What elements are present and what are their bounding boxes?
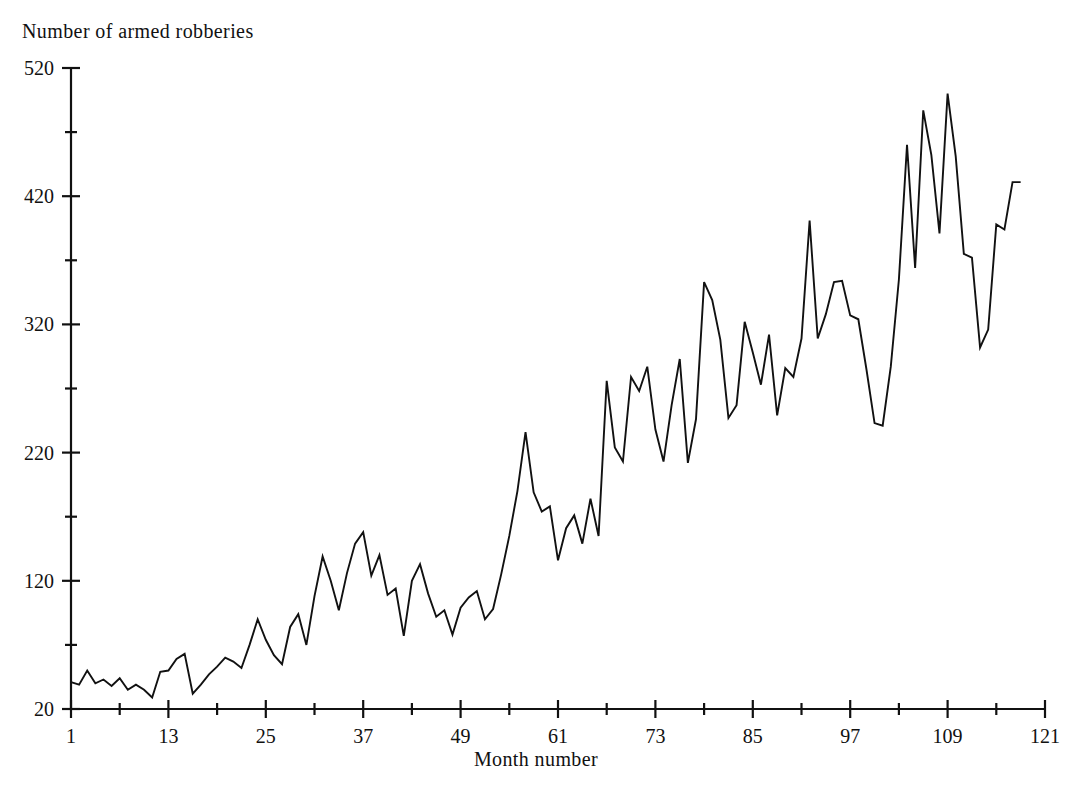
x-tick-label: 37 [353,725,373,747]
y-tick-label: 320 [24,313,54,335]
tick-labels-layer: 2012022032042052011325374961738597109121 [24,57,1060,747]
x-tick-label: 109 [933,725,963,747]
axes-layer [71,68,1045,709]
x-tick-label: 49 [451,725,471,747]
x-tick-label: 73 [645,725,665,747]
y-tick-label: 520 [24,57,54,79]
x-tick-label: 97 [840,725,860,747]
x-tick-label: 61 [548,725,568,747]
x-axis-title: Month number [0,748,1072,771]
x-tick-label: 25 [256,725,276,747]
x-tick-label: 85 [743,725,763,747]
x-tick-label: 13 [158,725,178,747]
ticks-layer [62,68,1045,718]
y-tick-label: 420 [24,185,54,207]
line-chart-plot: 2012022032042052011325374961738597109121 [0,0,1072,786]
x-tick-label: 121 [1030,725,1060,747]
y-tick-label: 120 [24,570,54,592]
chart-container: Number of armed robberies 20120220320420… [0,0,1072,786]
data-series-armed-robberies [71,94,1021,698]
y-tick-label: 20 [34,698,54,720]
y-tick-label: 220 [24,442,54,464]
x-tick-label: 1 [66,725,76,747]
